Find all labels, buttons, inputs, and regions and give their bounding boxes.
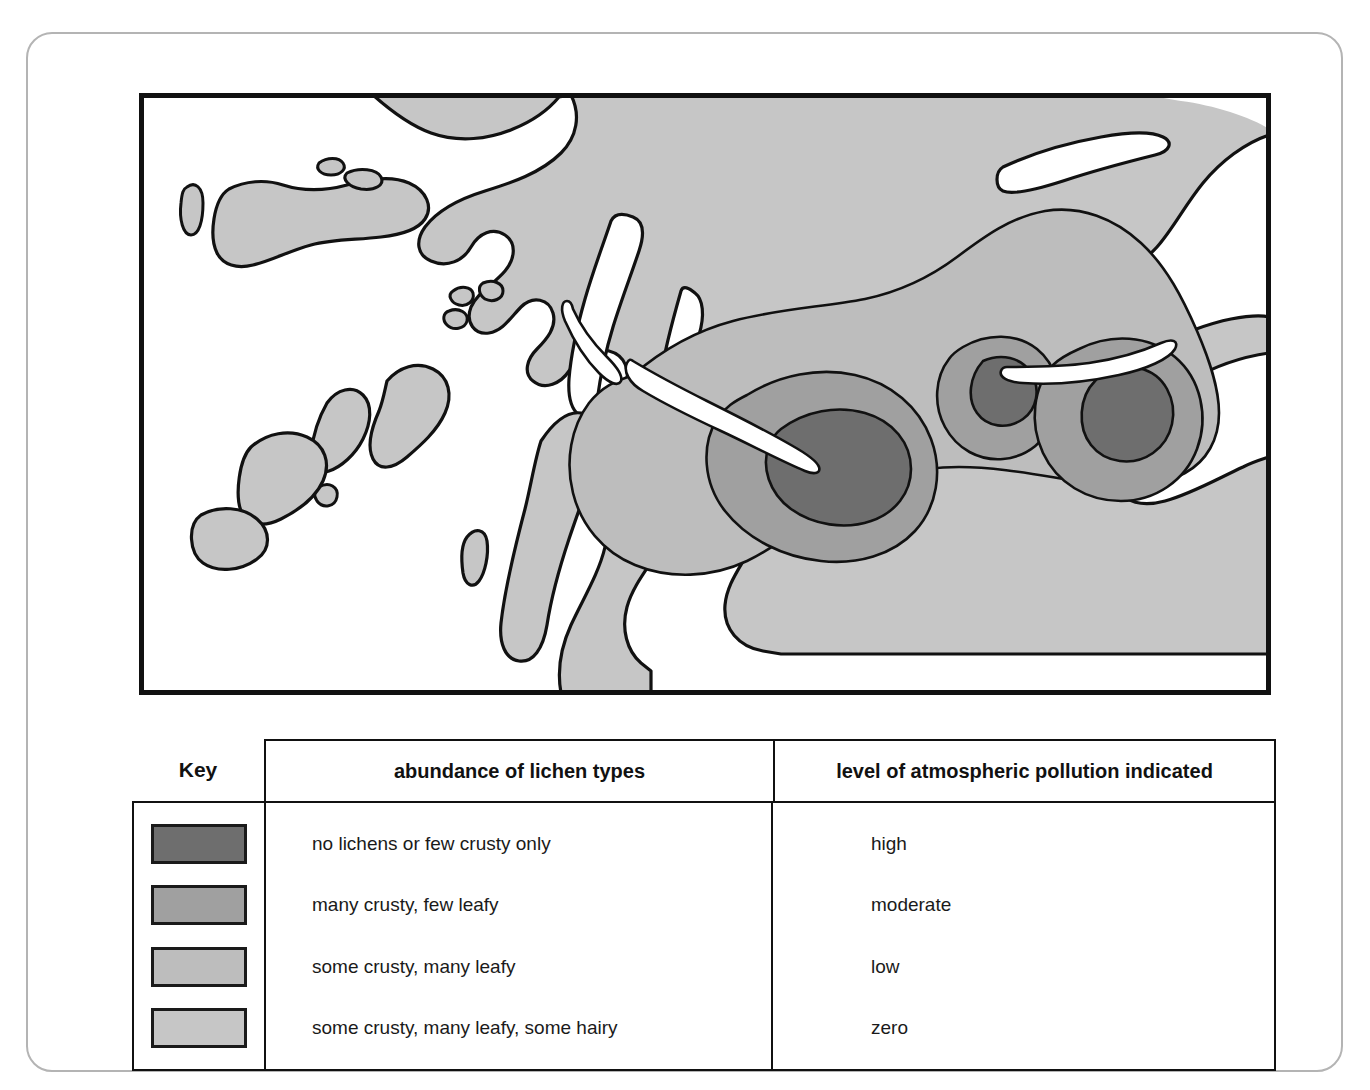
peninsula-south-west-tip bbox=[191, 509, 267, 570]
map-panel bbox=[139, 93, 1271, 695]
key-legend: Key abundance of lichen types level of a… bbox=[132, 739, 1276, 1071]
legend-pollution-moderate: moderate bbox=[871, 885, 1274, 925]
key-caption: Key bbox=[132, 739, 264, 801]
island-west-sliver bbox=[180, 185, 203, 235]
legend-swatch-high bbox=[151, 824, 247, 864]
legend-swatch-low bbox=[151, 947, 247, 987]
island-small-north-1 bbox=[318, 159, 345, 176]
legend-abundance-moderate: many crusty, few leafy bbox=[312, 885, 771, 925]
island-small-firth-2 bbox=[479, 281, 503, 300]
legend-header-abundance: abundance of lichen types bbox=[266, 741, 773, 801]
pollution-zone-high-edinburgh bbox=[1082, 367, 1174, 461]
scotland-pollution-map bbox=[141, 95, 1269, 693]
legend-swatch-moderate bbox=[151, 885, 247, 925]
legend-swatch-zero bbox=[151, 1008, 247, 1048]
island-small-north-2 bbox=[345, 170, 382, 190]
legend-abundance-low: some crusty, many leafy bbox=[312, 947, 771, 987]
figure-card: Key abundance of lichen types level of a… bbox=[26, 32, 1343, 1072]
pollution-zone-high-glasgow bbox=[766, 410, 911, 526]
legend-pollution-low: low bbox=[871, 947, 1274, 987]
legend-abundance-high: no lichens or few crusty only bbox=[312, 824, 771, 864]
legend-pollution-column: high moderate low zero bbox=[773, 803, 1274, 1069]
island-small-firth-1 bbox=[450, 287, 473, 305]
legend-header-row: abundance of lichen types level of atmos… bbox=[264, 739, 1276, 801]
legend-pollution-high: high bbox=[871, 824, 1274, 864]
legend-body: no lichens or few crusty only many crust… bbox=[132, 801, 1276, 1071]
island-small-firth-3 bbox=[444, 310, 467, 329]
legend-swatch-column bbox=[134, 803, 266, 1069]
legend-pollution-zero: zero bbox=[871, 1008, 1274, 1048]
legend-header-pollution: level of atmospheric pollution indicated bbox=[773, 741, 1274, 801]
legend-abundance-zero: some crusty, many leafy, some hairy bbox=[312, 1008, 771, 1048]
legend-abundance-column: no lichens or few crusty only many crust… bbox=[266, 803, 773, 1069]
